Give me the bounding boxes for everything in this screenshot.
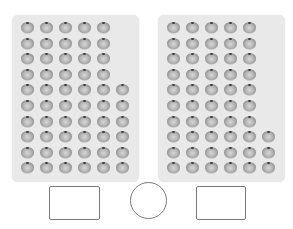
bead-icon — [186, 116, 199, 127]
bead-icon — [167, 100, 180, 111]
bead-icon — [224, 147, 237, 158]
bead-icon — [21, 53, 34, 64]
bead-icon — [78, 84, 91, 95]
bead-icon — [97, 84, 110, 95]
bead-icon — [167, 116, 180, 127]
bead-icon — [59, 53, 72, 64]
bead-icon — [21, 84, 34, 95]
bead-icon — [186, 162, 199, 173]
bead-icon — [224, 38, 237, 49]
bead-icon — [59, 116, 72, 127]
bead-icon — [21, 22, 34, 33]
bead-icon — [97, 100, 110, 111]
bead-icon — [21, 147, 34, 158]
bead-icon — [224, 69, 237, 80]
bead-icon — [167, 84, 180, 95]
bead-icon — [78, 22, 91, 33]
bead-icon — [116, 116, 129, 127]
bead-icon — [116, 100, 129, 111]
left-bead-tray — [12, 15, 139, 182]
bead-icon — [21, 38, 34, 49]
bead-icon — [40, 131, 53, 142]
bead-icon — [40, 22, 53, 33]
bead-icon — [78, 53, 91, 64]
bead-icon — [167, 53, 180, 64]
bead-icon — [167, 69, 180, 80]
bead-icon — [59, 69, 72, 80]
bead-icon — [205, 22, 218, 33]
bead-icon — [186, 53, 199, 64]
bead-icon — [243, 22, 256, 33]
bead-icon — [243, 116, 256, 127]
bead-icon — [243, 84, 256, 95]
right-count-answer-box[interactable] — [196, 186, 246, 220]
bead-icon — [205, 53, 218, 64]
bead-icon — [167, 162, 180, 173]
bead-icon — [116, 131, 129, 142]
bead-icon — [243, 147, 256, 158]
bead-icon — [205, 131, 218, 142]
bead-icon — [167, 38, 180, 49]
bead-icon — [97, 38, 110, 49]
bead-icon — [224, 53, 237, 64]
bead-icon — [167, 22, 180, 33]
bead-icon — [97, 116, 110, 127]
bead-icon — [224, 100, 237, 111]
bead-icon — [205, 162, 218, 173]
bead-icon — [243, 69, 256, 80]
bead-icon — [40, 147, 53, 158]
bead-icon — [116, 147, 129, 158]
bead-icon — [59, 147, 72, 158]
bead-icon — [243, 162, 256, 173]
bead-icon — [205, 69, 218, 80]
bead-icon — [97, 22, 110, 33]
bead-icon — [243, 131, 256, 142]
bead-icon — [21, 131, 34, 142]
bead-icon — [205, 147, 218, 158]
bead-icon — [205, 84, 218, 95]
bead-icon — [78, 100, 91, 111]
bead-icon — [59, 100, 72, 111]
compare-symbol-answer-circle[interactable] — [130, 182, 167, 219]
bead-icon — [243, 53, 256, 64]
bead-icon — [40, 116, 53, 127]
bead-icon — [186, 22, 199, 33]
bead-icon — [40, 162, 53, 173]
bead-icon — [59, 131, 72, 142]
bead-icon — [59, 84, 72, 95]
bead-icon — [59, 38, 72, 49]
bead-icon — [186, 147, 199, 158]
bead-icon — [262, 131, 275, 142]
bead-icon — [205, 100, 218, 111]
bead-icon — [186, 100, 199, 111]
bead-icon — [116, 162, 129, 173]
bead-icon — [59, 22, 72, 33]
bead-icon — [167, 147, 180, 158]
bead-icon — [205, 116, 218, 127]
bead-icon — [167, 131, 180, 142]
bead-icon — [205, 38, 218, 49]
bead-icon — [21, 116, 34, 127]
bead-icon — [186, 131, 199, 142]
bead-icon — [40, 38, 53, 49]
bead-icon — [78, 116, 91, 127]
bead-icon — [224, 131, 237, 142]
bead-icon — [97, 131, 110, 142]
bead-icon — [224, 22, 237, 33]
bead-icon — [40, 53, 53, 64]
bead-icon — [243, 100, 256, 111]
bead-icon — [40, 100, 53, 111]
bead-icon — [40, 84, 53, 95]
bead-icon — [40, 69, 53, 80]
bead-icon — [78, 69, 91, 80]
bead-icon — [97, 53, 110, 64]
bead-icon — [78, 147, 91, 158]
bead-icon — [59, 162, 72, 173]
left-count-answer-box[interactable] — [49, 186, 100, 220]
bead-icon — [97, 147, 110, 158]
bead-icon — [116, 84, 129, 95]
bead-icon — [224, 84, 237, 95]
bead-icon — [78, 38, 91, 49]
bead-icon — [186, 84, 199, 95]
bead-icon — [262, 147, 275, 158]
